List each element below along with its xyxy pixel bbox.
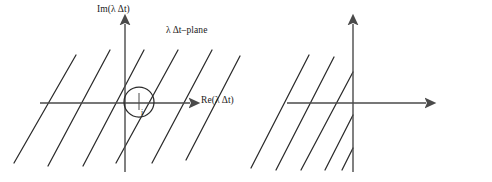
hatch-line <box>342 148 353 170</box>
hatch-line-group <box>14 50 240 166</box>
right-panel-canvas <box>246 0 492 182</box>
unit-circle-label: i <box>141 109 143 117</box>
hatch-line <box>48 50 110 166</box>
hatch-line <box>251 55 309 168</box>
hatch-line <box>186 56 240 160</box>
right-panel: Im(λ Δt) λ Δt–plane Re(λ Δt) <box>246 0 492 182</box>
figure-root: Im(λ Δt) λ Δt–plane Re(λ Δt) i <box>0 0 492 182</box>
imaginary-axis-label: Im(λ Δt) <box>97 5 130 15</box>
hatch-line <box>152 50 212 163</box>
hatch-line <box>325 115 353 170</box>
left-panel: Im(λ Δt) λ Δt–plane Re(λ Δt) i <box>0 0 246 182</box>
real-axis-label: Re(λ Δt) <box>201 96 234 106</box>
hatch-line <box>301 72 353 170</box>
hatch-line <box>14 55 76 163</box>
left-panel-canvas <box>0 0 246 182</box>
plane-label: λ Δt–plane <box>166 26 208 36</box>
hatch-line <box>83 50 144 166</box>
hatch-line <box>276 57 334 170</box>
hatch-line-group <box>251 55 353 170</box>
